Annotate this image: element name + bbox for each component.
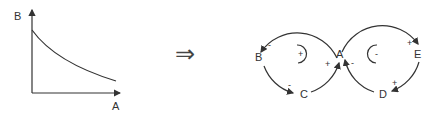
implies-arrow-icon: ⇒	[175, 40, 195, 68]
decreasing-curve	[32, 30, 116, 81]
sign-B-C: -	[288, 80, 291, 90]
right-loop: A E D + + - -	[336, 26, 421, 100]
loop-polarity-right: -	[375, 49, 378, 59]
sign-E-D: +	[392, 78, 397, 88]
link-D-to-A	[345, 60, 374, 92]
sign-A-E: +	[407, 38, 412, 48]
node-E: E	[414, 48, 421, 60]
node-C: C	[300, 88, 308, 100]
loop-polarity-left: +	[298, 49, 303, 59]
node-D: D	[379, 88, 387, 100]
diagram-canvas: B A ⇒ B C - - + + A E D + + - -	[0, 0, 435, 114]
node-B: B	[255, 51, 262, 63]
sign-C-A: +	[325, 59, 330, 69]
y-axis-label: B	[14, 10, 21, 22]
left-loop: B C - - + +	[255, 33, 339, 100]
node-A: A	[336, 48, 344, 60]
sign-D-A: -	[351, 58, 354, 68]
x-axis-label: A	[112, 100, 120, 112]
left-graph: B A	[14, 10, 120, 112]
sign-A-B: -	[268, 40, 271, 50]
